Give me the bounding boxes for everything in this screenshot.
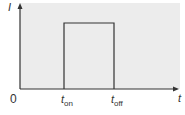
t-on-label: ton: [61, 94, 73, 105]
origin-label: 0: [10, 93, 17, 105]
x-axis-label: t: [178, 93, 181, 104]
y-axis-label: I: [8, 2, 11, 13]
pulse-line: [64, 23, 114, 89]
t-on-sub: on: [64, 99, 73, 108]
pulse-chart: [0, 0, 185, 115]
x-axis-arrow-icon: [173, 87, 179, 92]
t-off-sub: off: [114, 99, 123, 108]
y-axis-arrow-icon: [18, 3, 23, 9]
t-off-label: toff: [111, 94, 123, 105]
